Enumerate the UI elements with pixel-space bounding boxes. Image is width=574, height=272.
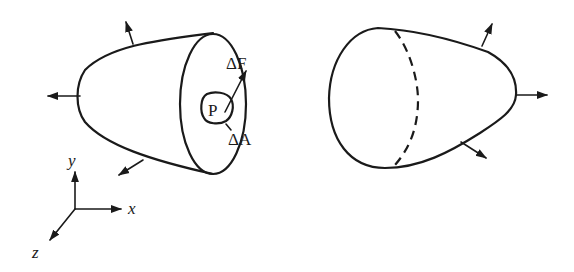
z-axis-arrow xyxy=(50,209,75,240)
left-body-outline xyxy=(78,33,214,174)
surface-force-arrow-top xyxy=(126,22,133,44)
surface-force-arrow-lower-right xyxy=(461,142,486,158)
coordinate-axes: y x z xyxy=(31,151,136,262)
z-axis-label: z xyxy=(31,243,39,262)
area-delta-a-label: ΔA xyxy=(228,130,252,149)
point-p-label: P xyxy=(208,101,217,120)
right-body-outline xyxy=(329,28,516,168)
surface-force-arrow-upper-right xyxy=(482,24,492,46)
hidden-cut-section-edge xyxy=(395,31,418,165)
x-axis-label: x xyxy=(127,199,136,218)
left-body-segment: P ΔF ΔA xyxy=(48,22,252,175)
y-axis-label: y xyxy=(66,151,76,170)
surface-force-arrow-bottom xyxy=(119,160,143,175)
right-body-segment xyxy=(329,24,547,168)
force-delta-f-label: ΔF xyxy=(226,54,246,73)
force-vector-delta-f xyxy=(225,71,246,112)
stress-free-body-diagram: P ΔF ΔA y x z xyxy=(0,0,574,272)
